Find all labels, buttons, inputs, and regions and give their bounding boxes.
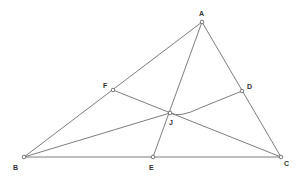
curve-jd: [170, 91, 242, 115]
point-j[interactable]: [168, 111, 172, 115]
label-c: C: [284, 160, 289, 167]
label-a: A: [199, 10, 204, 17]
label-f: F: [103, 82, 108, 89]
labels: A B C D E F J: [13, 10, 289, 171]
label-d: D: [247, 83, 252, 90]
point-a[interactable]: [200, 20, 204, 24]
point-e[interactable]: [151, 155, 155, 159]
point-f[interactable]: [111, 88, 115, 92]
point-b[interactable]: [22, 155, 26, 159]
label-j: J: [169, 119, 173, 126]
segment-ae: [153, 22, 202, 157]
geometry-diagram: A B C D E F J: [0, 0, 301, 177]
point-d[interactable]: [240, 89, 244, 93]
segment-fc: [113, 90, 281, 157]
label-b: B: [13, 164, 18, 171]
label-e: E: [149, 164, 154, 171]
points: [22, 20, 283, 159]
segment-bj: [24, 113, 170, 157]
point-c[interactable]: [279, 155, 283, 159]
